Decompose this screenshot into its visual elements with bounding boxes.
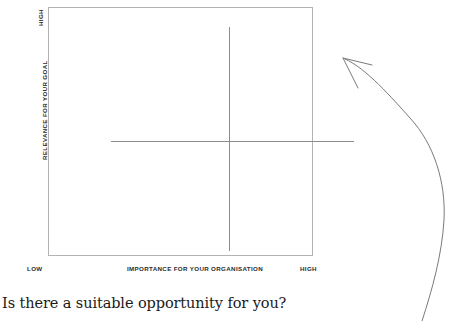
y-axis-high-label: HIGH (37, 9, 44, 26)
curved-arrow-icon (330, 40, 453, 321)
horizontal-divider-line (111, 141, 354, 142)
y-axis-title: RELEVANCE FOR YOUR GOAL (41, 60, 48, 160)
opportunity-matrix (48, 7, 313, 256)
x-axis-high-label: HIGH (300, 265, 317, 272)
question-caption: Is there a suitable opportunity for you? (2, 294, 286, 312)
x-axis-low-label: LOW (27, 265, 42, 272)
page-root: HIGH RELEVANCE FOR YOUR GOAL LOW IMPORTA… (0, 0, 453, 321)
x-axis-title: IMPORTANCE FOR YOUR ORGANISATION (127, 265, 263, 272)
vertical-divider-line (229, 27, 230, 251)
